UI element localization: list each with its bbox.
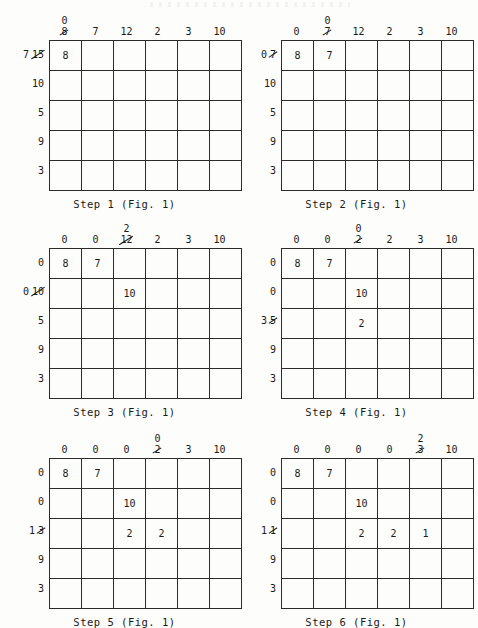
cost-matrix-grid: 87 [281, 40, 474, 191]
matrix-cell [346, 549, 378, 579]
matrix-cell [178, 101, 210, 131]
column-header-value: 12 [352, 26, 364, 38]
matrix-row [282, 71, 474, 101]
matrix-cell [82, 101, 114, 131]
column-header-6: 10 [204, 218, 235, 248]
row-label-value: 3 [38, 165, 44, 176]
matrix-row: 8 [50, 41, 242, 71]
matrix-cell [410, 579, 442, 609]
matrix-row: 87 [50, 249, 242, 279]
row-label-value: 9 [38, 136, 44, 147]
matrix-cell [178, 549, 210, 579]
column-header-2: 0 [312, 428, 343, 458]
row-label-value: 3 [38, 373, 44, 384]
matrix-cell [50, 161, 82, 191]
matrix-cell [442, 549, 474, 579]
matrix-cell [114, 249, 146, 279]
row-label-value: 0 [38, 467, 44, 478]
row-label-5: 3 [14, 574, 49, 603]
matrix-row [282, 579, 474, 609]
row-label-5: 3 [14, 364, 49, 393]
column-header-value: 10 [445, 444, 457, 456]
row-label-new-value: 0 [23, 286, 29, 297]
matrix-row [282, 101, 474, 131]
matrix-cell [114, 579, 146, 609]
column-header-value: 0 [355, 444, 361, 456]
row-label-4: 9 [14, 545, 49, 574]
column-header-value: 7 [92, 26, 98, 38]
column-header-value: 10 [445, 234, 457, 246]
row-label-old-value-struck: 7 [270, 49, 276, 60]
matrix-cell [346, 249, 378, 279]
step-caption: Step 1 (Fig. 1) [14, 198, 235, 210]
matrix-cell [82, 309, 114, 339]
column-header-value: 2 [154, 26, 160, 38]
matrix-cell [314, 309, 346, 339]
matrix-cell: 8 [50, 41, 82, 71]
column-header-value: 12 [120, 26, 132, 38]
matrix-row [50, 309, 242, 339]
row-label-new-value: 1 [29, 525, 35, 536]
matrix-cell [114, 339, 146, 369]
matrix-cell [346, 101, 378, 131]
row-label-value: 10 [264, 78, 276, 89]
column-header-row: 007122310 [246, 10, 478, 40]
matrix-cell [282, 519, 314, 549]
column-header-value: 0 [61, 234, 67, 246]
matrix-cell [146, 41, 178, 71]
matrix-cell [410, 459, 442, 489]
row-label-2: 0 [246, 277, 281, 306]
row-label-value: 0 [270, 286, 276, 297]
matrix-cell [146, 489, 178, 519]
step-caption: Step 4 (Fig. 1) [246, 406, 467, 418]
matrix-cell [178, 71, 210, 101]
matrix-cell [282, 339, 314, 369]
matrix-cell: 10 [114, 279, 146, 309]
matrix-cell [442, 369, 474, 399]
matrix-cell [82, 549, 114, 579]
row-label-new-value: 3 [261, 315, 267, 326]
column-header-new-value: 0 [154, 433, 160, 444]
matrix-cell [442, 41, 474, 71]
row-label-value: 0 [270, 467, 276, 478]
matrix-cell: 8 [282, 459, 314, 489]
row-label-2: 10 [14, 69, 49, 98]
step-figure-4: 0002231000359387102Step 4 (Fig. 1) [232, 210, 464, 420]
step-caption: Step 5 (Fig. 1) [14, 616, 235, 628]
column-header-old-value-struck: 2 [355, 234, 361, 246]
matrix-cell [146, 369, 178, 399]
row-label-value: 5 [270, 107, 276, 118]
matrix-cell [82, 519, 114, 549]
row-label-value: 0 [270, 496, 276, 507]
column-header-1: 0 [49, 428, 80, 458]
step-figure-6: 000023100011938710221Step 6 (Fig. 1) [232, 420, 464, 628]
matrix-cell [378, 41, 410, 71]
step-figure-3: 00212231000105938710Step 3 (Fig. 1) [0, 210, 232, 420]
matrix-cell: 2 [346, 519, 378, 549]
matrix-cell [282, 71, 314, 101]
matrix-row: 87 [50, 459, 242, 489]
matrix-body: 0011938710221 [246, 458, 478, 609]
matrix-cell: 10 [346, 489, 378, 519]
column-header-6: 10 [204, 428, 235, 458]
row-label-2: 010 [14, 277, 49, 306]
row-label-4: 9 [14, 335, 49, 364]
matrix-cell [314, 71, 346, 101]
matrix-cell [146, 459, 178, 489]
column-header-old-value-struck: 8 [61, 26, 67, 38]
matrix-cell [178, 369, 210, 399]
row-label-column: 71510593 [14, 40, 49, 191]
matrix-cell [50, 369, 82, 399]
matrix-cell [314, 549, 346, 579]
column-header-value: 3 [417, 26, 423, 38]
column-header-3: 12 [111, 10, 142, 40]
column-header-value: 0 [324, 444, 330, 456]
matrix-body: 071059387 [246, 40, 478, 191]
matrix-cell [314, 579, 346, 609]
matrix-cell [178, 579, 210, 609]
matrix-cell [314, 519, 346, 549]
matrix-cell [178, 489, 210, 519]
matrix-cell [378, 309, 410, 339]
column-header-new-value: 0 [324, 15, 330, 26]
row-label-1: 07 [246, 40, 281, 69]
